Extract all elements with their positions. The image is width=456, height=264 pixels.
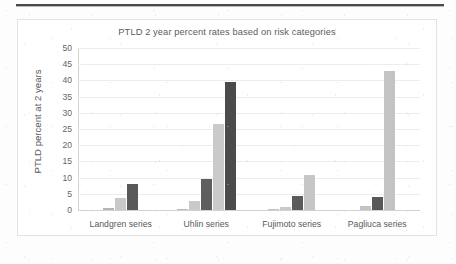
bar [292,196,303,210]
x-axis-category-label: Uhlin series [184,219,229,229]
bar-group: Landgren series [78,48,164,210]
y-axis-tick-label: 30 [62,108,72,118]
bar [127,184,138,210]
bar [360,206,371,210]
x-axis-category-label: Landgren series [90,219,152,229]
y-axis-tick-label: 15 [62,156,72,166]
bar [372,197,383,210]
y-axis-tick-label: 5 [67,189,72,199]
gridline: 0 [78,210,420,211]
y-axis-tick-label: 10 [62,173,72,183]
x-axis-category-label: Fujimoto series [262,219,321,229]
bar [103,208,114,210]
y-axis-tick-label: 0 [67,205,72,215]
bar [268,209,279,210]
x-axis-category-label: Pagliuca series [348,219,407,229]
y-axis-tick-label: 25 [62,124,72,134]
bar [189,201,200,210]
bar-group: Fujimoto series [249,48,335,210]
bar-group: Pagliuca series [335,48,421,210]
y-axis-tick-label: 35 [62,92,72,102]
y-axis-tick-label: 20 [62,140,72,150]
bar-group: Uhlin series [164,48,250,210]
bar [115,198,126,210]
y-axis-tick-label: 40 [62,75,72,85]
bar [280,207,291,210]
bar [304,175,315,210]
y-axis-tick-label: 50 [62,43,72,53]
bar [225,82,236,210]
bar [384,71,395,210]
page-divider-rule-shadow [16,6,444,7]
page-canvas: PTLD 2 year percent rates based on risk … [0,0,456,264]
bar [177,209,188,210]
bar [201,179,212,210]
y-axis-title: PTLD percent at 2 years [32,47,43,197]
chart-container: PTLD 2 year percent rates based on risk … [17,19,437,236]
chart-title: PTLD 2 year percent rates based on risk … [18,27,436,37]
y-axis-tick-label: 45 [62,59,72,69]
bar [213,124,224,210]
plot-area: 50454035302520151050 Landgren seriesUhli… [78,48,420,210]
